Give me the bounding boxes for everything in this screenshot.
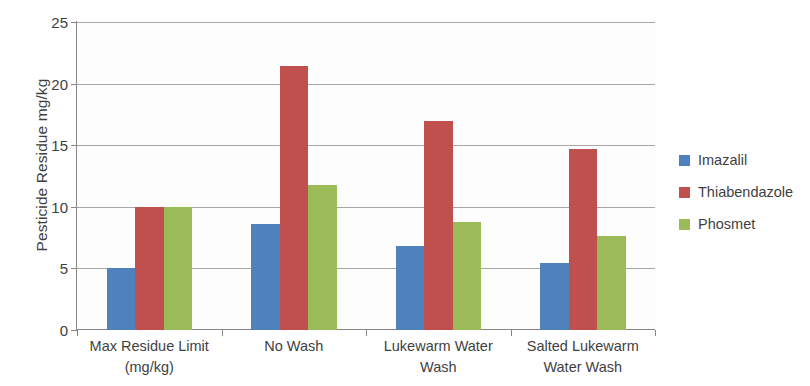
x-axis-tick-mark (655, 330, 656, 336)
chart-legend: ImazalilThiabendazolePhosmet (679, 144, 810, 240)
bar (164, 207, 193, 330)
x-axis-category-label-line: Water Wash (511, 357, 656, 378)
y-axis-tick-label: 0 (28, 322, 68, 339)
bar (308, 185, 337, 330)
bar (453, 222, 482, 330)
x-axis-category-label-line: Lukewarm Water (366, 336, 511, 357)
legend-swatch-icon (679, 155, 690, 166)
x-axis-category-label-line: Wash (366, 357, 511, 378)
x-axis-category-label-line: Salted Lukewarm (511, 336, 656, 357)
bar (424, 121, 453, 330)
bar (569, 149, 598, 330)
legend-label: Thiabendazole (698, 184, 793, 200)
legend-swatch-icon (679, 187, 690, 198)
legend-swatch-icon (679, 219, 690, 230)
x-axis-category-label-line: (mg/kg) (77, 357, 222, 378)
legend-label: Imazalil (698, 152, 747, 168)
y-axis-tick-label: 15 (28, 137, 68, 154)
y-axis-tick-labels: 0510152025 (28, 0, 68, 340)
bar (540, 263, 569, 330)
bar-chart: Pesticide Residue mg/kg 0510152025 Max R… (0, 0, 810, 386)
y-axis-tick-label: 25 (28, 14, 68, 31)
x-axis-category-label: Salted LukewarmWater Wash (511, 336, 656, 378)
bar (107, 268, 136, 330)
x-axis-category-label: Lukewarm WaterWash (366, 336, 511, 378)
x-axis-category-label: Max Residue Limit(mg/kg) (77, 336, 222, 378)
legend-item: Thiabendazole (679, 176, 810, 208)
x-axis-category-label-line: Max Residue Limit (77, 336, 222, 357)
bar (135, 207, 164, 330)
x-axis-category-label-line: No Wash (222, 336, 367, 357)
x-axis-category-label: No Wash (222, 336, 367, 357)
y-axis-tick-label: 5 (28, 260, 68, 277)
y-axis-tick-label: 20 (28, 75, 68, 92)
legend-label: Phosmet (698, 216, 755, 232)
y-axis-tick-label: 10 (28, 198, 68, 215)
x-axis-category-labels: Max Residue Limit(mg/kg)No WashLukewarm … (77, 336, 655, 386)
bar (251, 224, 280, 330)
legend-item: Phosmet (679, 208, 810, 240)
bar (280, 66, 309, 330)
bar (396, 246, 425, 330)
bars-layer (77, 22, 655, 330)
bar (597, 236, 626, 330)
legend-item: Imazalil (679, 144, 810, 176)
plot-area (77, 22, 655, 330)
